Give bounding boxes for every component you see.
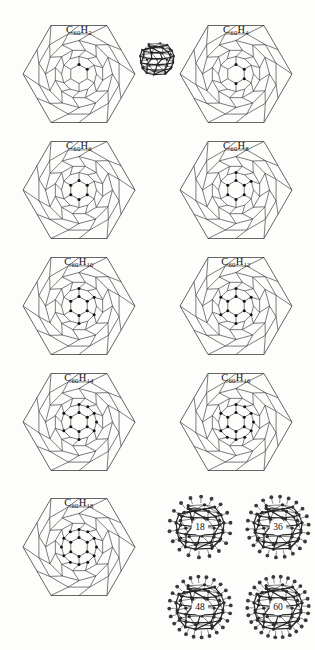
schlegel-panel-c60h14: C60H14 (4, 360, 154, 478)
c60-cage-icon (131, 33, 183, 91)
cage-48: 48 (163, 570, 237, 644)
schlegel-panel-c60h10: C60H10 (4, 244, 154, 362)
fullerene-hydrogenation-figure: C60H2 C60H4 C60H6 C60H8 C60H10 C60H12 C6… (0, 0, 315, 650)
cage-36: 36 (241, 490, 315, 564)
cage-18: 18 (163, 490, 237, 564)
schlegel-panel-c60h16: C60H16 (161, 360, 311, 478)
cage-60: 60 (241, 570, 315, 644)
schlegel-panel-c60h18: C60H18 (4, 485, 154, 603)
numbered-cage-cluster: 18 36 48 60 (163, 490, 315, 645)
schlegel-panel-c60h6: C60H6 (4, 128, 154, 246)
schlegel-panel-c60h8: C60H8 (161, 128, 311, 246)
schlegel-panel-c60h12: C60H12 (161, 244, 311, 362)
schlegel-panel-c60h4: C60H4 (161, 12, 311, 130)
